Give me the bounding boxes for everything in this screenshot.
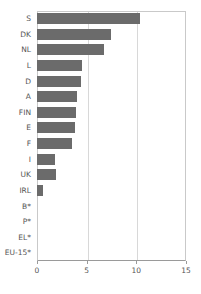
category-label: D <box>0 74 34 90</box>
tick-mark <box>136 261 137 264</box>
category-label: EU-15* <box>0 245 34 261</box>
bar[interactable] <box>37 76 81 87</box>
bar-row <box>37 136 186 152</box>
bar[interactable] <box>37 29 111 40</box>
category-label: A <box>0 89 34 105</box>
tick-label: 0 <box>35 266 40 275</box>
bar[interactable] <box>37 60 82 71</box>
tick-mark <box>186 261 187 264</box>
bar[interactable] <box>37 185 43 196</box>
bar[interactable] <box>37 107 76 118</box>
category-label: NL <box>0 42 34 58</box>
bar[interactable] <box>37 91 77 102</box>
bar-row <box>37 214 186 230</box>
bar-row <box>37 58 186 74</box>
category-label: F <box>0 136 34 152</box>
tick-label: 5 <box>84 266 89 275</box>
category-label: DK <box>0 27 34 43</box>
category-label: S <box>0 11 34 27</box>
bar-row <box>37 11 186 27</box>
bar-row <box>37 42 186 58</box>
bar[interactable] <box>37 122 75 133</box>
bar[interactable] <box>37 169 56 180</box>
bar-row <box>37 89 186 105</box>
category-axis-labels: SDKNLLDAFINEFIUKIRLB*P*EL*EU-15* <box>0 11 34 261</box>
category-label: IRL <box>0 183 34 199</box>
tick-mark <box>87 261 88 264</box>
bar[interactable] <box>37 44 104 55</box>
category-label: L <box>0 58 34 74</box>
category-label: B* <box>0 199 34 215</box>
bar-row <box>37 152 186 168</box>
bar-row <box>37 27 186 43</box>
tick-label: 15 <box>181 266 191 275</box>
bar[interactable] <box>37 154 55 165</box>
bar[interactable] <box>37 138 72 149</box>
category-label: P* <box>0 214 34 230</box>
bar-row <box>37 120 186 136</box>
category-label: UK <box>0 167 34 183</box>
bar-row <box>37 74 186 90</box>
bar-row <box>37 167 186 183</box>
bars-layer <box>37 11 186 261</box>
bar-row <box>37 199 186 215</box>
bar-chart: SDKNLLDAFINEFIUKIRLB*P*EL*EU-15* 051015 <box>0 0 201 294</box>
bar-row <box>37 183 186 199</box>
bar-row <box>37 230 186 246</box>
bar-row <box>37 245 186 261</box>
tick-label: 10 <box>132 266 142 275</box>
category-label: EL* <box>0 230 34 246</box>
category-label: I <box>0 152 34 168</box>
category-label: E <box>0 120 34 136</box>
tick-mark <box>37 261 38 264</box>
category-label: FIN <box>0 105 34 121</box>
value-axis: 051015 <box>37 261 186 283</box>
bar[interactable] <box>37 13 140 24</box>
bar-row <box>37 105 186 121</box>
